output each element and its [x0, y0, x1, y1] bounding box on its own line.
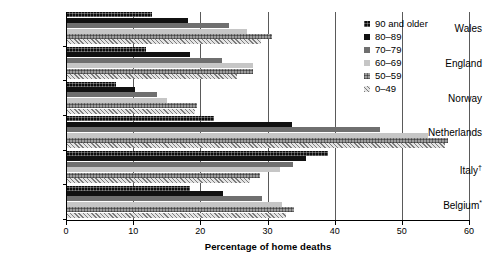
- x-tick-label: 10: [118, 226, 148, 237]
- y-tick-mark: [63, 80, 67, 81]
- legend-item: 80–89: [364, 30, 476, 43]
- bar: [66, 63, 253, 68]
- legend: 90 and older80–8970–7960–6950–590–49: [364, 17, 476, 95]
- y-axis-category-label: Netherlands: [420, 127, 482, 138]
- x-tick-mark: [335, 221, 336, 225]
- bar: [66, 74, 237, 79]
- bar: [66, 191, 223, 196]
- bar: [66, 39, 261, 44]
- legend-swatch-icon: [364, 86, 370, 92]
- bar: [66, 122, 292, 127]
- legend-item: 70–79: [364, 43, 476, 56]
- y-axis-category-label: Belgium*: [420, 197, 482, 211]
- legend-swatch-icon: [364, 60, 370, 66]
- legend-label: 0–49: [375, 82, 396, 95]
- y-axis-line: [66, 12, 67, 221]
- x-tick-label: 30: [253, 226, 283, 237]
- legend-item: 50–59: [364, 69, 476, 82]
- bar: [66, 133, 428, 138]
- x-axis-title: Percentage of home deaths: [66, 241, 470, 252]
- bar: [66, 213, 286, 218]
- bar: [66, 82, 116, 87]
- legend-label: 60–69: [375, 56, 401, 69]
- bar: [66, 178, 250, 183]
- y-tick-mark: [63, 46, 67, 47]
- bar: [66, 138, 448, 143]
- bar: [66, 151, 328, 156]
- y-tick-mark: [63, 184, 67, 185]
- bar: [66, 29, 247, 34]
- bar: [66, 47, 146, 52]
- bar: [66, 162, 293, 167]
- y-tick-mark: [63, 115, 67, 116]
- bar: [66, 87, 135, 92]
- x-tick-label: 20: [185, 226, 215, 237]
- bar: [66, 18, 188, 23]
- legend-item: 0–49: [364, 82, 476, 95]
- x-tick-label: 40: [320, 226, 350, 237]
- x-tick-label: 0: [51, 226, 81, 237]
- bar: [66, 92, 157, 97]
- footnote-marker: †: [478, 164, 482, 171]
- legend-label: 70–79: [375, 43, 401, 56]
- legend-swatch-icon: [364, 73, 370, 79]
- legend-label: 90 and older: [375, 17, 428, 30]
- bar: [66, 207, 294, 212]
- bar: [66, 116, 214, 121]
- y-axis-category-label: Italy†: [420, 162, 482, 176]
- bar: [66, 109, 195, 114]
- x-tick-mark: [66, 221, 67, 225]
- legend-swatch-icon: [364, 47, 370, 53]
- legend-item: 60–69: [364, 56, 476, 69]
- x-tick-mark: [133, 221, 134, 225]
- bar: [66, 12, 152, 17]
- gridline: [268, 12, 269, 220]
- x-tick-mark: [402, 221, 403, 225]
- legend-swatch-icon: [364, 21, 370, 27]
- bar: [66, 173, 260, 178]
- legend-item: 90 and older: [364, 17, 476, 30]
- gridline: [335, 12, 336, 220]
- bar: [66, 143, 445, 148]
- x-tick-mark: [200, 221, 201, 225]
- y-tick-mark: [63, 150, 67, 151]
- legend-label: 80–89: [375, 30, 401, 43]
- bar: [66, 202, 282, 207]
- bar: [66, 196, 262, 201]
- bar: [66, 156, 306, 161]
- bar: [66, 52, 190, 57]
- legend-swatch-icon: [364, 34, 370, 40]
- bar: [66, 23, 229, 28]
- bar: [66, 167, 280, 172]
- legend-label: 50–59: [375, 69, 401, 82]
- bar: [66, 127, 380, 132]
- bar: [66, 103, 197, 108]
- footnote-marker: *: [479, 199, 482, 206]
- x-tick-label: 60: [454, 226, 484, 237]
- x-tick-label: 50: [387, 226, 417, 237]
- bar: [66, 58, 222, 63]
- x-tick-mark: [268, 221, 269, 225]
- bar: [66, 34, 272, 39]
- bar: [66, 186, 190, 191]
- y-tick-mark: [63, 219, 67, 220]
- bar: [66, 69, 253, 74]
- x-tick-mark: [469, 221, 470, 225]
- bar: [66, 98, 167, 103]
